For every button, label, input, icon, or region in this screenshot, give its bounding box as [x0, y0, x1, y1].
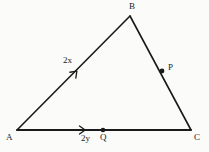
- measure-label-ab: 2x: [63, 56, 72, 65]
- point-label-p: P: [168, 63, 173, 72]
- vertex-label-a: A: [6, 133, 13, 142]
- side-AB: [17, 16, 130, 130]
- side-BC: [130, 16, 191, 130]
- vertex-label-c: C: [194, 133, 200, 142]
- point-P-marker: [160, 69, 165, 74]
- vertex-label-b: B: [129, 2, 135, 11]
- triangle-diagram-canvas: [0, 0, 209, 152]
- point-label-q: Q: [100, 133, 107, 142]
- geometry-figure: A B C P Q 2x 2y: [0, 0, 209, 152]
- tick-mark-ab-chevron-icon: [70, 68, 80, 78]
- measure-label-aq: 2y: [81, 134, 90, 143]
